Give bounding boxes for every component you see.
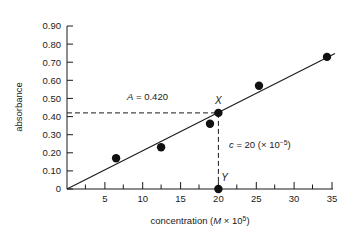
data-point <box>206 120 214 128</box>
x-tick-label-5: 5 <box>102 193 107 204</box>
x-axis-ticks: 5 10 15 20 25 30 35 <box>85 182 337 204</box>
x-axis-title: concentration (M × 105) <box>150 215 249 227</box>
marked-point-y-label: Y <box>221 172 229 183</box>
data-point <box>255 82 263 90</box>
absorbance-symbol: A <box>126 91 133 102</box>
x-axis-title-prefix: concentration ( <box>150 215 214 226</box>
y-tick-label-0.30: 0.30 <box>43 129 62 140</box>
marked-point-y <box>214 185 222 193</box>
data-points-group <box>112 53 331 163</box>
y-tick-label-0.20: 0.20 <box>43 147 62 158</box>
absorbance-readout-annotation: A = 0.420 <box>126 91 168 102</box>
x-tick-label-10: 10 <box>137 193 148 204</box>
x-tick-label-25: 25 <box>251 193 262 204</box>
marked-point-x-label: X <box>214 95 222 106</box>
best-fit-line <box>67 54 335 190</box>
data-point <box>157 143 165 151</box>
y-tick-label-0.60: 0.60 <box>43 75 62 86</box>
concentration-close-paren: ) <box>287 139 290 150</box>
y-tick-label-0.50: 0.50 <box>43 93 62 104</box>
calibration-curve-figure: 0 0.10 0.20 0.30 0.40 0.50 0.60 0.70 0.8… <box>0 0 355 240</box>
y-tick-label-0.40: 0.40 <box>43 111 62 122</box>
chart-canvas: 0 0.10 0.20 0.30 0.40 0.50 0.60 0.70 0.8… <box>0 0 355 240</box>
y-tick-label-0.10: 0.10 <box>43 165 62 176</box>
y-axis-ticks: 0 0.10 0.20 0.30 0.40 0.50 0.60 0.70 0.8… <box>43 20 74 194</box>
y-tick-label-0.70: 0.70 <box>43 57 62 68</box>
x-axis-title-symbol: M <box>213 215 221 226</box>
x-tick-label-35: 35 <box>327 193 338 204</box>
axes-group <box>67 26 333 189</box>
absorbance-value: = 0.420 <box>133 91 168 102</box>
marked-points-group: X Y <box>214 95 229 193</box>
y-axis-title: absorbance <box>13 82 24 132</box>
x-tick-label-20: 20 <box>213 193 224 204</box>
data-point <box>323 53 331 61</box>
concentration-value: = 20 (× 10 <box>234 139 280 150</box>
data-point <box>112 154 120 162</box>
y-tick-label-0.80: 0.80 <box>43 39 62 50</box>
concentration-readout-annotation: c = 20 (× 10−5) <box>229 139 291 151</box>
x-tick-label-15: 15 <box>175 193 186 204</box>
x-axis-title-mult: × 10 <box>221 215 242 226</box>
marked-point-x <box>214 109 222 117</box>
x-axis-title-close-paren: ) <box>246 215 249 226</box>
x-tick-label-30: 30 <box>289 193 300 204</box>
y-tick-label-0.90: 0.90 <box>43 20 62 31</box>
y-tick-label-0: 0 <box>56 183 61 194</box>
